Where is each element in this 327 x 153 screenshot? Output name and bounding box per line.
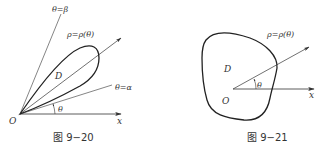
label-region-d: D [54, 71, 62, 81]
ray-theta-alpha [20, 85, 112, 114]
angle-arc [254, 79, 256, 89]
figure-9-21: ρ=ρ(θ) D θ O x 图 9−21 [202, 30, 314, 143]
figure-caption: 图 9−20 [53, 132, 94, 143]
figure-9-20: θ=β ρ=ρ(θ) D θ=α θ O x 图 9−20 [9, 5, 133, 143]
label-angle-theta: θ [58, 105, 63, 114]
label-origin: O [222, 96, 230, 106]
ray-theta [20, 38, 121, 114]
label-rho-curve: ρ=ρ(θ) [266, 30, 294, 39]
label-origin: O [9, 116, 17, 126]
label-theta-alpha: θ=α [115, 83, 133, 92]
angle-arc [53, 104, 55, 114]
figure-caption: 图 9−21 [247, 132, 288, 143]
label-angle-theta: θ [257, 81, 262, 90]
label-x-axis: x [117, 116, 122, 126]
label-theta-beta: θ=β [52, 5, 69, 14]
label-region-d: D [223, 64, 231, 74]
diagram-canvas: θ=β ρ=ρ(θ) D θ=α θ O x 图 9−20 ρ=ρ(θ) D θ… [0, 0, 327, 153]
label-rho-curve: ρ=ρ(θ) [66, 30, 94, 39]
closed-boundary-curve [202, 33, 277, 120]
label-x-axis: x [309, 90, 314, 100]
ray-theta [233, 47, 309, 89]
